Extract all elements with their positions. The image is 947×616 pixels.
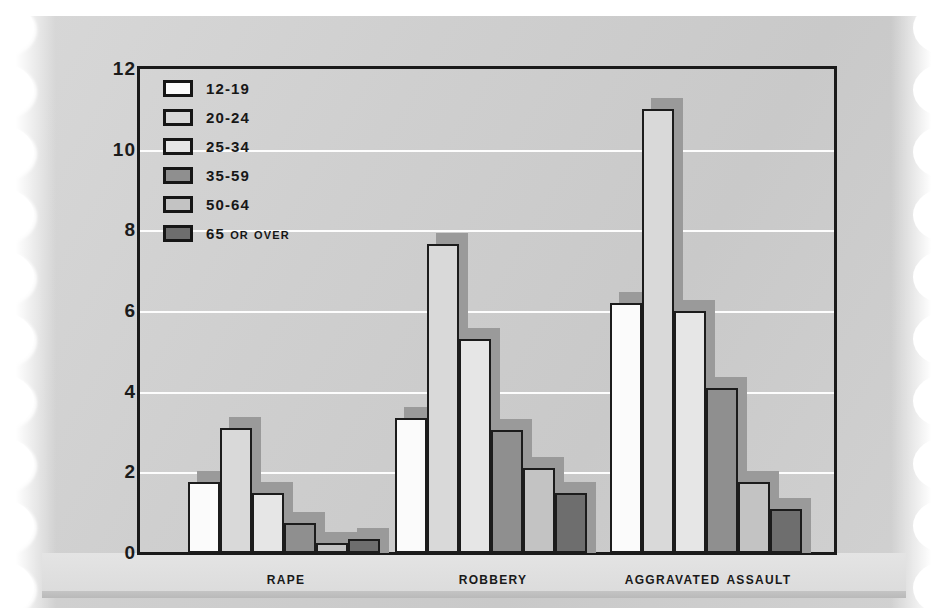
bar[interactable] (491, 430, 523, 553)
legend-swatch (163, 80, 193, 97)
legend-label: 65 or over (206, 225, 290, 242)
bar[interactable] (252, 493, 284, 554)
x-axis-label: Rape (188, 569, 384, 589)
legend-label: 12-19 (206, 80, 250, 97)
x-axis-label: Aggravated assault (610, 569, 806, 589)
legend: 12-1920-2425-3435-5950-6465 or over (163, 74, 363, 248)
legend-item[interactable]: 25-34 (163, 132, 363, 161)
bar[interactable] (284, 523, 316, 553)
legend-swatch (163, 225, 193, 242)
legend-item[interactable]: 12-19 (163, 74, 363, 103)
legend-label: 50-64 (206, 196, 250, 213)
y-tick-label: 4 (124, 381, 136, 403)
bar-group: Robbery (395, 69, 591, 553)
top-margin (0, 0, 947, 16)
bar-shadow-side (802, 498, 811, 553)
legend-label: 20-24 (206, 109, 250, 126)
bar-shadow-side (587, 482, 596, 554)
bar[interactable] (348, 539, 380, 553)
legend-swatch (163, 196, 193, 213)
legend-item[interactable]: 20-24 (163, 103, 363, 132)
bar[interactable] (316, 543, 348, 553)
bar[interactable] (555, 493, 587, 554)
bar-group: Aggravated assault (610, 69, 806, 553)
legend-swatch (163, 167, 193, 184)
bottom-margin (0, 608, 947, 616)
y-tick-label: 12 (113, 58, 136, 80)
y-tick-label: 0 (124, 542, 136, 564)
y-axis: 121086420 (90, 56, 136, 566)
bar[interactable] (706, 388, 738, 553)
bar[interactable] (642, 109, 674, 553)
legend-item[interactable]: 35-59 (163, 161, 363, 190)
y-tick-label: 10 (113, 139, 136, 161)
x-axis-label: Robbery (395, 569, 591, 589)
legend-item[interactable]: 50-64 (163, 190, 363, 219)
bar[interactable] (395, 418, 427, 553)
base-rule (42, 591, 906, 598)
legend-swatch (163, 109, 193, 126)
legend-label: 35-59 (206, 167, 250, 184)
y-tick-label: 8 (124, 219, 136, 241)
bar[interactable] (188, 482, 220, 553)
bar[interactable] (610, 303, 642, 553)
legend-item[interactable]: 65 or over (163, 219, 363, 248)
bar[interactable] (220, 428, 252, 553)
legend-swatch (163, 138, 193, 155)
y-tick-label: 6 (124, 300, 136, 322)
bar[interactable] (674, 311, 706, 553)
y-tick-label: 2 (124, 461, 136, 483)
bar-shadow-side (380, 528, 389, 553)
bar[interactable] (770, 509, 802, 553)
legend-label: 25-34 (206, 138, 250, 155)
bar[interactable] (523, 468, 555, 553)
bar[interactable] (459, 339, 491, 553)
bar[interactable] (427, 244, 459, 553)
bar[interactable] (738, 482, 770, 553)
